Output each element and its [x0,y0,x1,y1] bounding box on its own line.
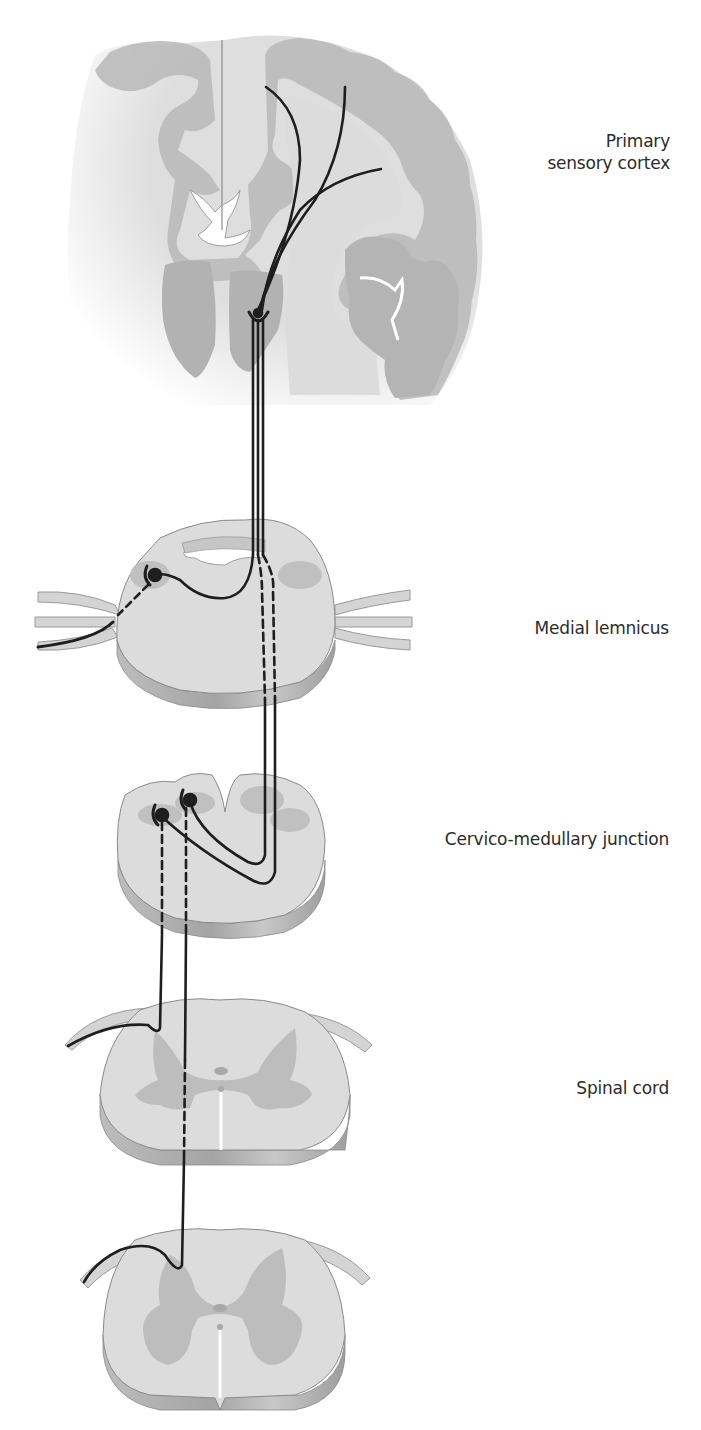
medulla-section [117,774,325,939]
label-cervico-medullary-junction: Cervico-medullary junction [445,828,669,850]
nerve-roots-right [335,590,412,650]
fasciculus-gracilis [185,935,186,1060]
label-primary-sensory-cortex: Primary sensory cortex [547,130,670,174]
label-primary-sensory-cortex-line2: sensory cortex [547,152,670,174]
medulla-nucleus-right-1 [240,786,284,814]
label-spinal-cord: Spinal cord [576,1077,669,1099]
spinal-cord-upper-section [65,999,372,1165]
nerve-roots-left [35,592,120,650]
brainstem-synapse [149,569,161,581]
medulla-top-face [117,774,325,924]
spinal-cord-lower-section [80,1229,370,1410]
lower-central-canal [213,1304,227,1312]
pathway-diagram [0,0,701,1430]
nucleus-right [278,561,322,589]
lower-cord-top-face [103,1229,345,1410]
label-primary-sensory-cortex-line1: Primary [547,130,670,152]
brain-coronal-section [68,36,483,406]
upper-cord-top-face [100,999,350,1150]
upper-central-canal [214,1067,228,1075]
label-medial-lemniscus: Medial lemnicus [535,617,669,639]
brainstem-section [35,519,412,709]
cuneate-synapse [184,794,196,806]
gracile-synapse [156,809,168,821]
